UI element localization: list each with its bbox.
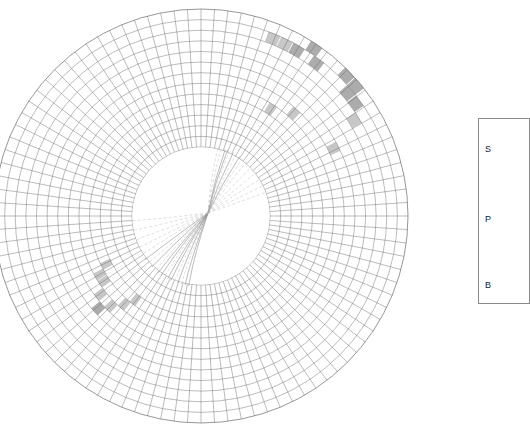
grid-spoke	[261, 113, 381, 182]
grid-spoke	[246, 268, 337, 372]
grid-spoke	[246, 60, 337, 164]
grid-spoke	[134, 281, 178, 412]
grid-spoke	[65, 60, 156, 164]
grid-spoke	[98, 276, 167, 396]
grid-spoke	[45, 80, 149, 171]
grid-spoke	[253, 80, 357, 171]
grid-spoke	[55, 70, 153, 168]
inner-hub-mask	[132, 147, 269, 284]
grid-spoke	[22, 113, 142, 182]
legend-entry-0[interactable]: S	[485, 144, 491, 154]
grid-spoke	[5, 149, 136, 193]
legend-label-2: B	[485, 280, 491, 290]
legend-entry-1[interactable]: P	[485, 214, 491, 224]
legend[interactable]: S P B	[478, 118, 530, 304]
inner-hub	[132, 147, 269, 284]
grid-spoke	[223, 281, 267, 412]
grid-spoke	[0, 202, 132, 211]
heatmap-cell[interactable]	[308, 55, 324, 71]
heatmap-cell[interactable]	[287, 106, 301, 120]
grid-spoke	[250, 265, 348, 363]
heatmap-cell[interactable]	[346, 112, 361, 128]
grid-spoke	[134, 20, 178, 151]
legend-label-1: P	[485, 214, 491, 224]
grid-spoke	[261, 251, 381, 320]
grid-spoke	[5, 238, 136, 282]
grid-spoke	[98, 37, 167, 157]
heatmap-cell[interactable]	[91, 302, 105, 316]
grid-spoke	[223, 20, 267, 151]
heatmap-cell[interactable]	[305, 41, 322, 57]
grid-spoke	[266, 238, 397, 282]
legend-label-0: S	[485, 144, 491, 154]
grid-spoke	[236, 37, 305, 157]
grid-spoke	[65, 268, 156, 372]
grid-spoke	[236, 276, 305, 396]
heatmap-cell[interactable]	[264, 102, 277, 115]
grid-spoke	[266, 149, 397, 193]
grid-spoke	[253, 261, 357, 352]
legend-entry-2[interactable]: B	[485, 280, 491, 290]
grid-spoke	[0, 221, 132, 230]
heatmap-cell[interactable]	[94, 288, 107, 301]
